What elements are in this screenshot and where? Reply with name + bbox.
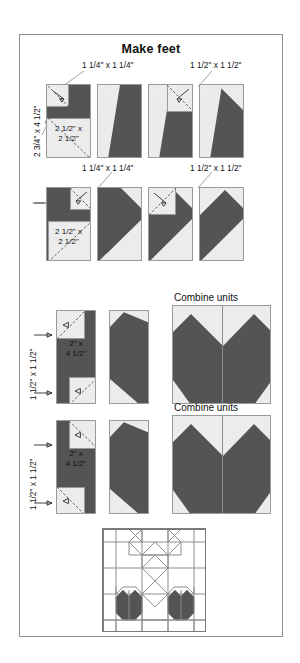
diagram-frame: Make feet 1 1/4" x 1 1/4" 1 1/2" x 1 1/2… [19, 34, 283, 637]
row3-combined-unit [172, 305, 271, 404]
label-row3-inner: 2" x 4 1/2" [56, 339, 96, 359]
row3-step2-unit [109, 310, 149, 404]
label-row3-combine: Combine units [174, 293, 238, 303]
row2-step2-unit [97, 187, 142, 261]
row1-step3-unit [148, 84, 193, 158]
label-row1-inner: 2 1/2" x 2 1/2" [46, 124, 91, 144]
row1-step1-unit [46, 84, 91, 158]
row4-combined-unit [172, 415, 271, 514]
row1-step4-unit [199, 84, 244, 158]
row2-step3-unit [148, 187, 193, 261]
label-row2-inner: 2 1/2" x 2 1/2" [46, 227, 91, 247]
row2-step1-unit [46, 187, 91, 261]
row4-step2-unit [109, 420, 149, 514]
label-row4-combine: Combine units [174, 403, 238, 413]
completed-quilt-block [102, 528, 206, 632]
row1-step2-unit [97, 84, 142, 158]
label-row4-inner: 2" x 4 1/2" [56, 449, 96, 469]
row2-step4-unit [199, 187, 244, 261]
